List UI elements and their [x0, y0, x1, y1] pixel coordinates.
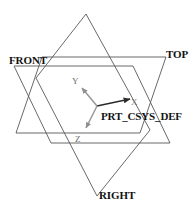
csys-axes-group[interactable]	[82, 88, 130, 128]
csys-name-label[interactable]: PRT_CSYS_DEF	[101, 111, 182, 122]
y-axis-line[interactable]	[82, 88, 97, 106]
x-axis-label: X	[131, 98, 138, 107]
datum-plane-label-right[interactable]: RIGHT	[99, 190, 135, 201]
cad-viewport[interactable]: FRONT TOP RIGHT PRT_CSYS_DEF X Y Z	[0, 0, 196, 214]
cad-drawing-canvas[interactable]	[0, 0, 196, 214]
z-axis-line[interactable]	[86, 106, 97, 128]
datum-plane-front[interactable]	[14, 66, 170, 143]
datum-plane-label-front[interactable]: FRONT	[9, 55, 47, 66]
y-axis-label: Y	[72, 77, 79, 86]
z-axis-label: Z	[75, 135, 81, 144]
datum-plane-label-top[interactable]: TOP	[166, 49, 188, 60]
x-axis-line[interactable]	[97, 99, 130, 106]
